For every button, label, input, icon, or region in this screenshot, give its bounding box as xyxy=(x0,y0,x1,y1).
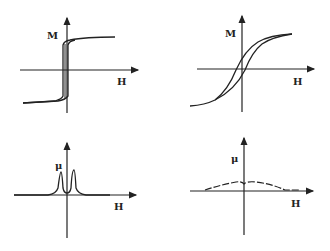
x-label: H xyxy=(114,201,123,212)
x-label: H xyxy=(291,198,300,209)
magnetization-diagram: M H M H μ H μ H xyxy=(0,0,330,251)
x-label: H xyxy=(293,76,302,87)
panel-bottom-right: μ H xyxy=(190,138,313,235)
panel-bottom-left: μ H xyxy=(14,143,136,238)
y-label: M xyxy=(225,28,236,39)
y-label: μ xyxy=(231,153,238,164)
panel-top-right: M H xyxy=(190,16,314,112)
y-label: M xyxy=(47,30,58,41)
x-label: H xyxy=(117,76,126,87)
permeability-curve xyxy=(205,182,300,190)
y-label: μ xyxy=(55,160,62,171)
loop-descending xyxy=(215,34,292,100)
loop-ascending xyxy=(190,34,292,106)
panel-top-left: M H xyxy=(20,18,138,113)
permeability-curve xyxy=(14,170,110,195)
